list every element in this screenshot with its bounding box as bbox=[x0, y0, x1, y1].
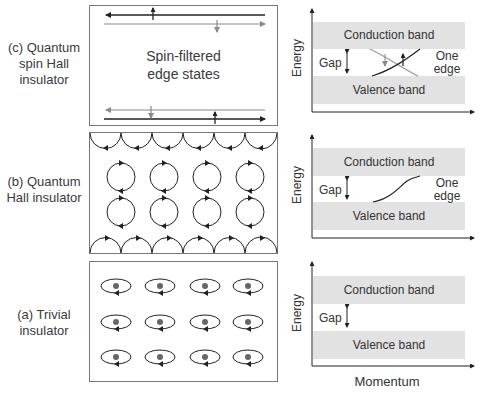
valence-band-label: Valence band bbox=[353, 209, 426, 223]
valence-band-label: Valence band bbox=[353, 338, 426, 352]
one-edge-label: edge bbox=[434, 189, 461, 203]
panel-a-box bbox=[90, 262, 278, 382]
atom-dots bbox=[113, 283, 251, 360]
panel-b-box bbox=[90, 133, 278, 254]
diagram-canvas: Conduction band Valence band Gap One edg… bbox=[0, 0, 482, 394]
energy-axis-label: Energy bbox=[290, 294, 304, 332]
spin-up-edge-dispersion bbox=[372, 49, 420, 76]
panel-c-box bbox=[90, 6, 278, 126]
valence-band-label: Valence band bbox=[353, 83, 426, 97]
cyclotron-orbits bbox=[107, 160, 264, 229]
one-edge-label: edge bbox=[434, 62, 461, 76]
momentum-axis-label: Momentum bbox=[354, 374, 419, 389]
one-edge-label: One bbox=[436, 176, 459, 190]
gap-label: Gap bbox=[319, 56, 342, 70]
chiral-edge-dispersion bbox=[373, 176, 420, 202]
conduction-band-label: Conduction band bbox=[344, 283, 435, 297]
gap-label: Gap bbox=[319, 183, 342, 197]
energy-axis-label: Energy bbox=[290, 166, 304, 204]
conduction-band-label: Conduction band bbox=[344, 155, 435, 169]
spin-down-edge-dispersion bbox=[370, 49, 418, 76]
conduction-band-label: Conduction band bbox=[344, 28, 435, 42]
energy-axis-label: Energy bbox=[290, 39, 304, 77]
one-edge-label: One bbox=[436, 49, 459, 63]
atomic-orbits bbox=[101, 279, 263, 364]
gap-label: Gap bbox=[319, 311, 342, 325]
